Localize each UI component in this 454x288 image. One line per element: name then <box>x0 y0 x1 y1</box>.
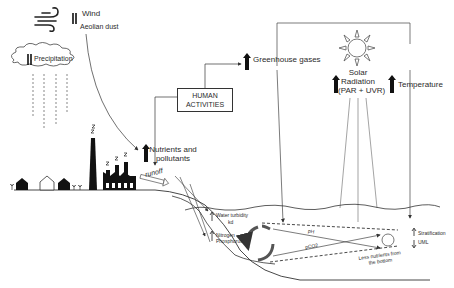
temperature-label: Temperature <box>398 80 443 89</box>
aeolian-dust-label: Aeolian dust <box>80 23 119 31</box>
smoke-icons <box>91 125 127 165</box>
cycle-arrows-icon <box>247 226 273 260</box>
solar-radiation-label: Solar Radiation (PAR + UVR) <box>338 68 378 95</box>
diagram-canvas <box>0 0 454 288</box>
nutrients-label: Nutrients and pollutants <box>148 145 198 163</box>
sun-icon <box>339 30 375 66</box>
solar-rays <box>340 98 377 222</box>
kd-label: kd <box>228 219 233 225</box>
stratification-label: Stratification <box>418 230 446 236</box>
wind-flow-arrow <box>86 34 138 150</box>
wind-label: Wind <box>82 9 100 18</box>
greenhouse-up-arrow-icon <box>245 57 249 70</box>
human-activities-line2: ACTIVITIES <box>178 100 232 109</box>
water-surface <box>185 204 440 210</box>
human-activities-line1: HUMAN <box>178 91 232 100</box>
nutrient-flow-arrows <box>175 176 210 242</box>
wind-icon <box>35 8 58 31</box>
phosphorus-line: Phosphorus <box>216 238 243 244</box>
small-cycle-icon <box>382 234 394 246</box>
human-activities-box: HUMAN ACTIVITIES <box>177 88 233 112</box>
wind-trend-icon <box>73 13 76 24</box>
chimney-icon <box>89 138 97 190</box>
feedback-bracket <box>277 23 410 222</box>
ph-pco2-lines <box>273 229 380 256</box>
house-outline-icon <box>40 176 54 190</box>
uml-label: UML <box>418 239 429 245</box>
temperature-up-arrow-icon <box>390 79 394 93</box>
nutrients-line1: Nutrients and <box>148 145 198 154</box>
greenhouse-gases-label: Greenhouse gases <box>253 55 321 64</box>
nitrogen-phosphorus-label: Nitrogen Phosphorus <box>216 232 243 244</box>
rain-lines <box>33 74 67 128</box>
nutrients-line2: pollutants <box>148 154 198 163</box>
solar-line2: Radiation <box>338 77 378 86</box>
solar-line3: (PAR + UVR) <box>338 86 378 95</box>
precipitation-label: Precipitation <box>34 55 73 63</box>
water-turbidity-label: Water turbidity <box>216 212 248 218</box>
solar-line1: Solar <box>338 68 378 77</box>
ph-label: pH <box>308 228 315 235</box>
